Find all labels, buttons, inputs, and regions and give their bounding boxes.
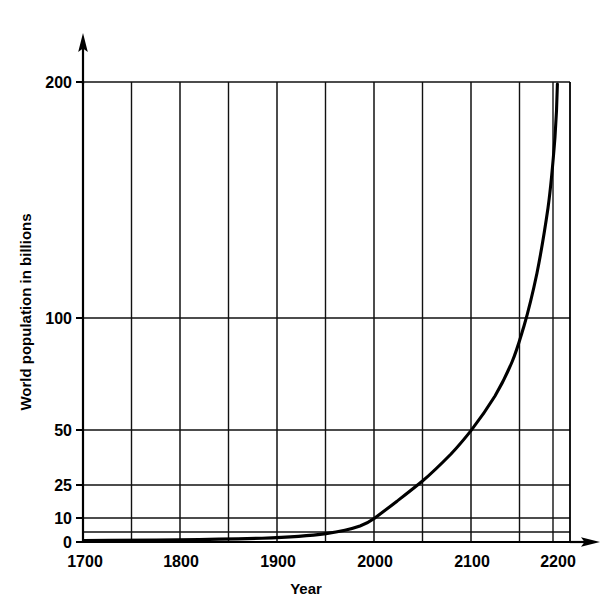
x-axis-title: Year: [290, 580, 322, 597]
x-tick-label-1900: 1900: [260, 553, 296, 570]
y-tick-label-25: 25: [54, 477, 72, 494]
x-tick-label-2100: 2100: [454, 553, 490, 570]
y-tick-label-0: 0: [63, 534, 72, 551]
x-tick-labels: 1700 1800 1900 2000 2100 2200: [67, 553, 576, 570]
y-tick-label-50: 50: [54, 422, 72, 439]
y-axis-title: World population in billions: [17, 213, 34, 410]
y-tick-label-200: 200: [45, 74, 72, 91]
plot-background: [83, 82, 570, 542]
x-tick-label-2000: 2000: [357, 553, 393, 570]
y-tick-label-100: 100: [45, 310, 72, 327]
population-growth-chart: 200 100 50 25 10 0 1700 1800 1900 2000 2…: [0, 0, 612, 609]
y-tick-labels: 200 100 50 25 10 0: [45, 74, 72, 551]
x-tick-label-1800: 1800: [163, 553, 199, 570]
x-tick-label-2200: 2200: [540, 553, 576, 570]
x-tick-label-1700: 1700: [67, 553, 103, 570]
chart-canvas: 200 100 50 25 10 0 1700 1800 1900 2000 2…: [0, 0, 612, 609]
y-tick-label-10: 10: [54, 510, 72, 527]
